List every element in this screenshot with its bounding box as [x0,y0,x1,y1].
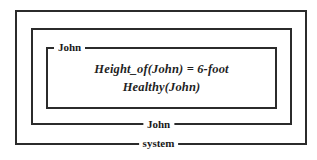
box-john-middle-left-edge [31,28,33,125]
box-system-left-edge [15,10,17,145]
box-john-middle-right-edge [290,28,292,125]
box-john-inner-label: John [54,41,85,53]
box-john-inner-left-edge [46,47,48,109]
box-system-right-edge [305,10,307,145]
box-john-inner-right-edge [275,47,277,109]
box-system-label: system [139,137,179,149]
box-system-top-edge [15,10,307,12]
box-john-inner-bottom-edge [46,107,277,109]
box-john-middle-label: John [143,118,174,130]
box-john-inner [46,47,277,109]
box-john-middle-top-edge [31,28,292,30]
nested-context-diagram: Height_of(John) = 6-foot Healthy(John) J… [0,0,317,160]
